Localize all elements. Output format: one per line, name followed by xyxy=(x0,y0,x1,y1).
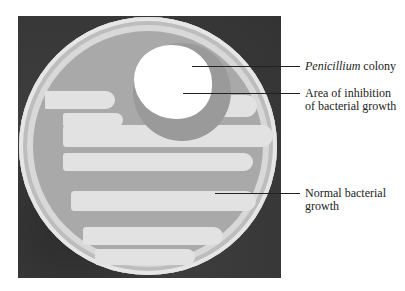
label-inhibition-area: Area of inhibition of bacterial growth xyxy=(305,87,396,113)
label-text: colony xyxy=(360,59,396,73)
leader-line-inhibition xyxy=(183,93,300,94)
label-italic-species: Penicillium xyxy=(305,59,360,73)
leader-line-growth xyxy=(215,193,300,194)
label-penicillium-colony: Penicillium colony xyxy=(305,60,396,73)
label-normal-growth: Normal bacterial growth xyxy=(305,187,386,213)
petri-dish-photo xyxy=(18,16,281,278)
petri-dish-plate xyxy=(19,17,277,275)
bacterial-streak xyxy=(63,153,253,171)
leader-line-colony xyxy=(192,66,300,67)
bacterial-streak xyxy=(45,91,115,109)
bacterial-streak xyxy=(95,249,195,265)
label-line: of bacterial growth xyxy=(305,100,396,113)
bacterial-streak xyxy=(83,227,223,245)
bacterial-streak xyxy=(71,191,256,211)
label-line: growth xyxy=(305,200,386,213)
